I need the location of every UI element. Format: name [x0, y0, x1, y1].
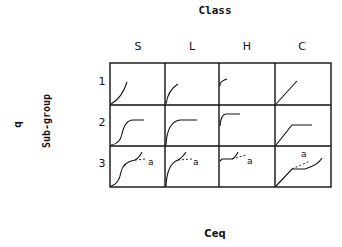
curve-l3: [166, 152, 186, 186]
annotation-a-h3: a: [247, 156, 253, 166]
curve-c1: [276, 81, 297, 104]
annotation-a-c3: a: [301, 149, 307, 159]
curve-s2: [111, 120, 144, 145]
curve-h2: [220, 114, 240, 126]
curve-s3: [111, 152, 142, 186]
annotation-a-s3: a: [148, 157, 154, 167]
curve-c2: [276, 125, 312, 145]
curve-l1: [166, 84, 178, 104]
curve-h1: [220, 79, 227, 86]
curve-h3: [220, 152, 238, 161]
curve-c3: [276, 158, 322, 186]
annotation-a-l3: a: [193, 157, 199, 167]
isotherm-grid: a a a a: [0, 0, 342, 247]
curve-l2: [166, 120, 197, 145]
curve-s1: [111, 82, 127, 104]
